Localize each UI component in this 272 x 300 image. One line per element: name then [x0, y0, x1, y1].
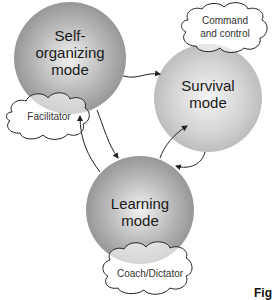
- facilitator-label: Facilitator: [18, 111, 80, 124]
- coach-dictator-label: Coach/Dictator: [112, 268, 188, 281]
- arrow-self-to-learning: [97, 110, 118, 158]
- arrow-survival-to-learning: [176, 152, 205, 167]
- learning-label: Learning mode: [100, 196, 180, 230]
- command-control-label: Command and control: [190, 15, 260, 40]
- arrow-self-to-survival: [123, 74, 160, 77]
- survival-label: Survival mode: [168, 78, 248, 112]
- self-organizing-label: Self- organizing mode: [30, 28, 110, 78]
- figure-caption-fragment: Fig: [254, 286, 272, 300]
